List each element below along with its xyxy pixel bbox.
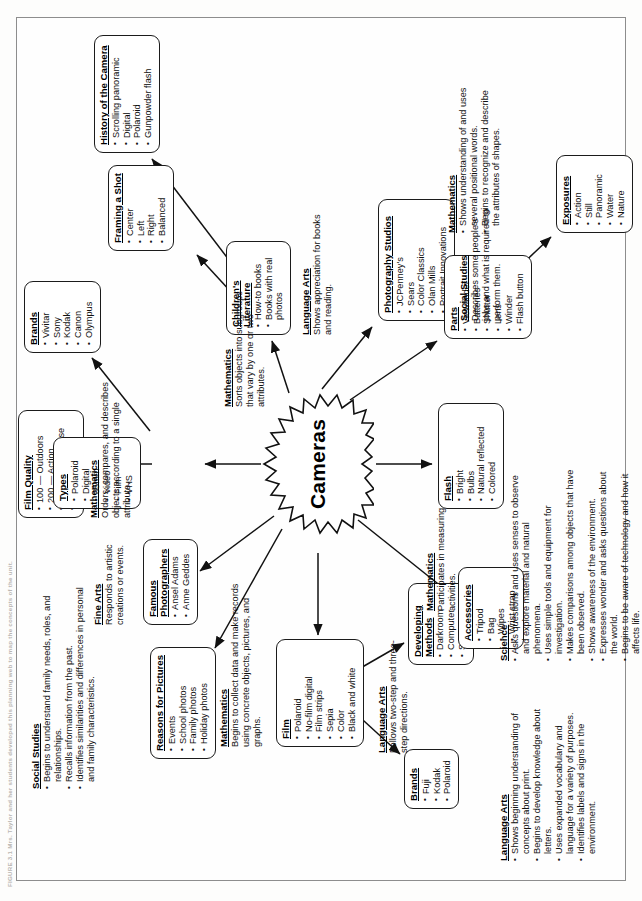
standard-mathematics-data: Mathematics Begins to collect data and m… xyxy=(218,571,263,747)
node-list: Polaroid No-film digital Film strips Sep… xyxy=(293,647,358,739)
standard-social-studies-family: Social Studies Begins to understand fami… xyxy=(30,583,97,789)
list-item: Anne Geddes xyxy=(181,547,192,617)
list-item: 100 — Outdoors xyxy=(35,418,46,510)
standard-heading: Language Arts xyxy=(376,625,387,753)
standard-body: Begins to collect data and make records … xyxy=(230,571,263,747)
node-brands-camera[interactable]: Brands Vivitar Sony Kodak Canon Olympus xyxy=(24,281,101,353)
list-item: Tripod xyxy=(475,575,486,641)
node-reasons-for-pictures[interactable]: Reasons for Pictures Events School photo… xyxy=(150,647,216,759)
list-item: Sears xyxy=(406,207,417,313)
node-film[interactable]: Film Polaroid No-film digital Film strip… xyxy=(276,639,364,747)
list-item: Sepia xyxy=(325,647,336,739)
central-node-cameras: Cameras xyxy=(262,379,374,549)
list-item: Bulbs xyxy=(466,411,477,501)
list-item: School photos xyxy=(178,655,189,751)
list-item: Uses expanded vocabulary and language fo… xyxy=(554,691,576,861)
list-item: No-film digital xyxy=(304,647,315,739)
list-item: Scrolling panoramic xyxy=(111,43,122,145)
node-title: Reasons for Pictures xyxy=(155,655,166,751)
list-item: Shows awareness of the environment. xyxy=(587,469,598,661)
standard-language-arts-print: Language Arts Shows beginning understand… xyxy=(498,691,598,861)
node-flash[interactable]: Flash Bright Bulbs Natural reflected Col… xyxy=(438,403,504,509)
node-exposures[interactable]: Exposures Action Still Panoramic Water N… xyxy=(556,155,633,233)
list-item: Center xyxy=(125,173,136,243)
list-item: Olympus xyxy=(84,289,95,345)
standard-heading: Fine Arts xyxy=(92,521,103,625)
standard-mathematics-measuring: Mathematics Participates in measuring ac… xyxy=(424,501,458,611)
standard-heading: Social Studies xyxy=(30,583,41,789)
node-list: JCPenney's Sears Color Classics Olan Mil… xyxy=(395,207,449,313)
list-item: Bright xyxy=(455,411,466,501)
list-item: Books with real photos xyxy=(264,249,284,327)
standard-list: Shows understanding of and uses several … xyxy=(458,79,502,233)
node-title: Film xyxy=(281,647,292,739)
list-item: Expresses wonder and asks questions abou… xyxy=(598,469,620,661)
list-item: Right xyxy=(146,173,157,243)
standard-language-arts-appreciation: Language Arts Shows appreciation for boo… xyxy=(300,211,334,335)
standard-mathematics-sorts: Mathematics Sorts objects into subgroups… xyxy=(222,287,267,407)
list-item: Begins to develop knowledge about letter… xyxy=(532,691,554,861)
list-item: Balanced xyxy=(157,173,168,243)
standard-heading: Language Arts xyxy=(300,211,311,335)
node-title: Framing a Shot xyxy=(113,173,124,243)
node-list: Action Still Panoramic Water Nature xyxy=(573,163,627,225)
standard-heading: Mathematics xyxy=(424,501,435,611)
node-title: Famous Photographers xyxy=(148,547,169,617)
list-item: Gunpowder flash xyxy=(143,43,154,145)
list-item: Begins to understand family needs, roles… xyxy=(42,583,64,789)
list-item: Panoramic xyxy=(594,163,605,225)
node-brands-film[interactable]: Brands Fuji Kodak Polaroid xyxy=(404,749,459,809)
figure-caption: FIGURE 3.1 Mrs. Taylor and her students … xyxy=(6,17,13,887)
list-item: Kodak xyxy=(432,757,443,801)
node-list: Events School photos Family photos Holid… xyxy=(167,655,210,751)
list-item: Polaroid xyxy=(70,445,81,501)
list-item: Vivitar xyxy=(41,289,52,345)
node-title: Flash xyxy=(443,411,454,501)
standard-fine-arts: Fine Arts Responds to artistic creations… xyxy=(92,521,126,625)
list-item: Winder xyxy=(504,263,515,331)
standard-language-arts-directions: Language Arts Follows two-step and three… xyxy=(376,625,410,753)
node-history-of-the-camera[interactable]: History of the Camera Scrolling panorami… xyxy=(94,35,160,153)
list-item: Shows beginning understanding of concept… xyxy=(510,691,532,861)
list-item: Begins to be aware of technology and how… xyxy=(620,469,642,661)
list-item: Olan Mills xyxy=(427,207,438,313)
node-famous-photographers[interactable]: Famous Photographers Ansel Adams Anne Ge… xyxy=(143,539,198,625)
list-item: Still xyxy=(584,163,595,225)
list-item: Polaroid xyxy=(442,757,453,801)
list-item: Water xyxy=(605,163,616,225)
list-item: Color Classics xyxy=(416,207,427,313)
node-list: Ansel Adams Anne Geddes xyxy=(170,547,192,617)
standard-list: Shows beginning understanding of concept… xyxy=(510,691,598,861)
list-item: Nature xyxy=(616,163,627,225)
list-item: Flash button xyxy=(515,263,526,331)
list-item: Uses simple tools and equipment for inve… xyxy=(543,469,565,661)
standard-body: Responds to artistic creations or events… xyxy=(104,521,126,625)
list-item: Colored xyxy=(487,411,498,501)
list-item: Family photos xyxy=(188,655,199,751)
node-list: Scrolling panoramic Digital Polaroid Gun… xyxy=(111,43,154,145)
list-item: Kodak xyxy=(62,289,73,345)
list-item: Polaroid xyxy=(132,43,143,145)
node-title: Types xyxy=(58,445,69,501)
list-item: Identifies labels and signs in the envir… xyxy=(576,691,598,861)
list-item: Canon xyxy=(73,289,84,345)
rotated-figure-canvas: FIGURE 3.1 Mrs. Taylor and her students … xyxy=(0,0,642,901)
node-framing-a-shot[interactable]: Framing a Shot Center Left Right Balance… xyxy=(108,165,174,251)
list-item: Digital xyxy=(122,43,133,145)
node-title: History of the Camera xyxy=(99,43,110,145)
list-item: Sony xyxy=(52,289,63,345)
list-item: Left xyxy=(136,173,147,243)
list-item: Asks questions and uses senses to observ… xyxy=(510,469,543,661)
standard-mathematics-orders: Mathematics Orders, compares, and descri… xyxy=(88,382,133,518)
standard-heading: Mathematics xyxy=(218,571,229,747)
node-title: Brands xyxy=(409,757,420,801)
list-item: JCPenney's xyxy=(395,207,406,313)
standard-science: Science Asks questions and uses senses t… xyxy=(498,469,642,661)
list-item: Events xyxy=(167,655,178,751)
node-list: Vivitar Sony Kodak Canon Olympus xyxy=(41,289,95,345)
node-title: Exposures xyxy=(561,163,572,225)
list-item: Film strips xyxy=(314,647,325,739)
node-list: Fuji Kodak Polaroid xyxy=(421,757,454,801)
list-item: Polaroid xyxy=(293,647,304,739)
hub-label: Cameras xyxy=(262,379,374,549)
